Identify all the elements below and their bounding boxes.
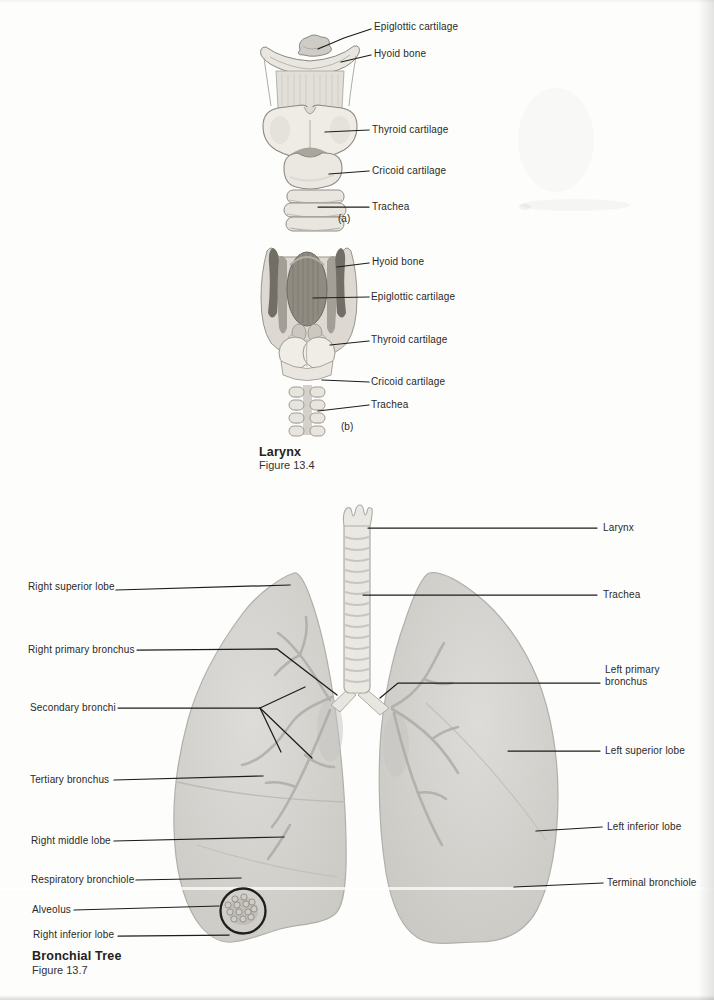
label-a-trachea: Trachea [372, 201, 409, 213]
larynx-caption-title: Larynx [259, 445, 301, 459]
label-tertiary-bronchus: Tertiary bronchus [30, 774, 109, 786]
label-left-inferior-lobe: Left inferior lobe [607, 821, 681, 833]
scanned-textbook-page: Epiglottic cartilage Hyoid bone Thyroid … [0, 0, 714, 1000]
label-right-superior-lobe: Right superior lobe [28, 581, 115, 593]
label-alveolus: Alveolus [32, 904, 71, 916]
panel-b-tag: (b) [341, 421, 353, 432]
label-respiratory-bronchiole: Respiratory bronchiole [31, 874, 134, 886]
label-terminal-bronchiole: Terminal bronchiole [607, 877, 697, 889]
bronchial-caption-title: Bronchial Tree [32, 949, 122, 963]
label-right-inferior-lobe: Right inferior lobe [33, 929, 114, 941]
label-right-middle-lobe: Right middle lobe [31, 835, 111, 847]
larynx-caption-figure: Figure 13.4 [259, 459, 315, 471]
label-b-epiglottic-cartilage: Epiglottic cartilage [371, 291, 455, 303]
label-left-superior-lobe: Left superior lobe [605, 745, 685, 757]
label-a-epiglottic-cartilage: Epiglottic cartilage [374, 21, 458, 33]
bronchial-caption-figure: Figure 13.7 [32, 964, 88, 976]
leader-lines-overlay [0, 0, 714, 1000]
panel-a-tag: (a) [338, 213, 350, 224]
label-trachea: Trachea [603, 589, 640, 601]
label-a-thyroid-cartilage: Thyroid cartilage [372, 124, 448, 136]
label-b-trachea: Trachea [371, 399, 408, 411]
label-a-cricoid-cartilage: Cricoid cartilage [372, 165, 446, 177]
label-larynx: Larynx [603, 522, 634, 534]
label-b-hyoid-bone: Hyoid bone [372, 256, 424, 268]
label-right-primary-bronchus: Right primary bronchus [28, 644, 135, 656]
label-b-thyroid-cartilage: Thyroid cartilage [371, 334, 447, 346]
label-b-cricoid-cartilage: Cricoid cartilage [371, 376, 445, 388]
label-left-primary-bronchus: Left primary bronchus [605, 664, 689, 688]
label-secondary-bronchi: Secondary bronchi [30, 702, 116, 714]
label-a-hyoid-bone: Hyoid bone [374, 48, 426, 60]
